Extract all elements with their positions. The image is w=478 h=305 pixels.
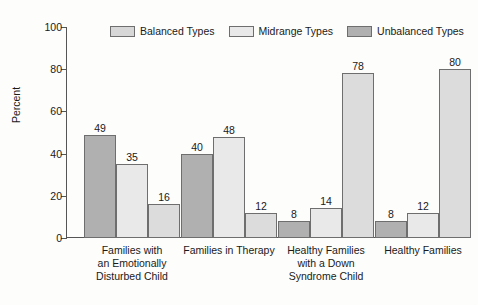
bars-layer: 49 35 16 40 48 12 <box>66 27 462 238</box>
bar-group-down-syndrome: 8 14 78 <box>278 27 374 238</box>
bar-group-families-in-therapy: 40 48 12 <box>181 27 277 238</box>
bar-unbalanced-g1[interactable]: 40 <box>181 154 213 238</box>
bar-unbalanced-g3[interactable]: 8 <box>375 221 407 238</box>
bar-value-balanced-g3: 80 <box>449 56 461 68</box>
bar-value-midrange-g0: 35 <box>126 151 138 163</box>
bar-value-midrange-g3: 12 <box>417 200 429 212</box>
bar-value-unbalanced-g2: 8 <box>291 208 297 220</box>
category-label-line: Disturbed Child <box>72 270 192 283</box>
bar-unbalanced-g2[interactable]: 8 <box>278 221 310 238</box>
bar-value-balanced-g0: 16 <box>158 191 170 203</box>
bar-chart-figure: Balanced Types Midrange Types Unbalanced… <box>0 0 478 305</box>
bar-balanced-g1[interactable]: 12 <box>245 213 277 238</box>
bar-value-balanced-g1: 12 <box>255 200 267 212</box>
bar-value-unbalanced-g0: 49 <box>94 122 106 134</box>
bar-value-balanced-g2: 78 <box>352 60 364 72</box>
bar-value-midrange-g1: 48 <box>223 124 235 136</box>
bar-unbalanced-g0[interactable]: 49 <box>84 135 116 238</box>
bar-value-unbalanced-g1: 40 <box>191 141 203 153</box>
bar-midrange-g0[interactable]: 35 <box>116 164 148 238</box>
plot-area: 100 80 60 40 20 0 49 <box>66 27 462 238</box>
category-label-line: with a Down <box>266 257 386 270</box>
bar-group-healthy-families: 8 12 80 <box>375 27 471 238</box>
category-label-healthy-families: Healthy Families <box>363 244 478 257</box>
category-label-line: Healthy Families <box>363 244 478 257</box>
bar-balanced-g0[interactable]: 16 <box>148 204 180 238</box>
bar-balanced-g3[interactable]: 80 <box>439 69 471 238</box>
bar-midrange-g2[interactable]: 14 <box>310 208 342 238</box>
bar-midrange-g3[interactable]: 12 <box>407 213 439 238</box>
category-label-line: an Emotionally <box>72 257 192 270</box>
bar-balanced-g2[interactable]: 78 <box>342 73 374 238</box>
category-label-line: Syndrome Child <box>266 270 386 283</box>
bar-value-midrange-g2: 14 <box>320 195 332 207</box>
x-axis-category-labels: Families with an Emotionally Disturbed C… <box>66 244 462 302</box>
y-axis-title: Percent <box>10 87 22 123</box>
bar-group-emotionally-disturbed: 49 35 16 <box>84 27 180 238</box>
bar-midrange-g1[interactable]: 48 <box>213 137 245 238</box>
bar-value-unbalanced-g3: 8 <box>388 208 394 220</box>
